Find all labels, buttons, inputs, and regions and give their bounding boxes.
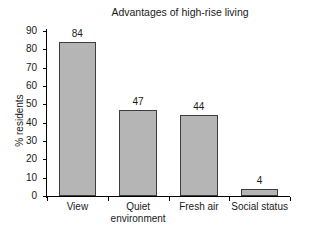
bar: [241, 189, 279, 196]
y-tick-mark: [43, 68, 47, 69]
y-tick-label: 70: [26, 61, 37, 74]
y-tick-mark: [43, 178, 47, 179]
y-tick-mark: [43, 159, 47, 160]
x-tick-mark: [229, 197, 230, 201]
y-tick-label: 40: [26, 116, 37, 129]
y-axis-title: % residents: [14, 61, 25, 181]
y-tick-label: 30: [26, 134, 37, 147]
bar: [180, 115, 218, 196]
x-category-label-line: Social status: [223, 201, 296, 213]
y-tick-label: 60: [26, 79, 37, 92]
y-tick-mark: [43, 49, 47, 50]
y-tick-label: 80: [26, 42, 37, 55]
x-tick-mark: [290, 197, 291, 201]
y-tick-label: 20: [26, 152, 37, 165]
x-tick-mark: [169, 197, 170, 201]
y-tick-mark: [43, 104, 47, 105]
y-tick-mark: [43, 86, 47, 87]
x-tick-mark: [47, 197, 48, 201]
chart-title: Advantages of high-rise living: [60, 6, 300, 18]
y-tick-label: 90: [26, 24, 37, 37]
bar-value-label: 4: [229, 175, 290, 186]
bar: [59, 42, 97, 196]
bar-value-label: 44: [169, 101, 230, 112]
x-category-label: Social status: [223, 201, 296, 213]
y-tick-mark: [43, 123, 47, 124]
bar-value-label: 47: [108, 96, 169, 107]
x-tick-mark: [108, 197, 109, 201]
bar-chart: Advantages of high-rise living % residen…: [0, 0, 311, 237]
y-tick-mark: [43, 141, 47, 142]
bar-value-label: 84: [47, 28, 108, 39]
plot-area: 01020304050607080908447444: [47, 31, 290, 196]
bar: [119, 110, 157, 196]
y-tick-label: 0: [31, 189, 37, 202]
x-category-label-line: environment: [102, 213, 175, 225]
y-tick-label: 10: [26, 171, 37, 184]
y-tick-label: 50: [26, 97, 37, 110]
